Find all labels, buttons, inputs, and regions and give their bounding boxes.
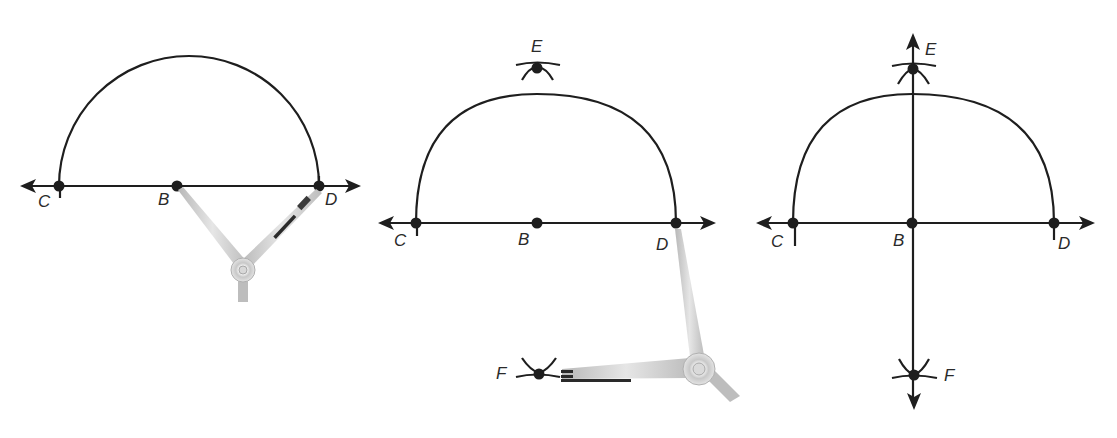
label-d: D	[656, 235, 668, 254]
label-f: F	[496, 364, 508, 383]
arc-intersection-e	[516, 63, 560, 81]
label-b: B	[158, 190, 169, 209]
line-cd	[20, 179, 361, 193]
label-e: E	[925, 40, 937, 59]
point-c	[788, 218, 799, 229]
semicircle-arc	[793, 94, 1054, 223]
label-b: B	[893, 231, 904, 250]
panel-step-2: C B D E F	[378, 37, 740, 402]
compass-icon	[178, 187, 322, 302]
label-c: C	[38, 192, 51, 211]
label-c: C	[394, 231, 407, 250]
compass-icon	[561, 229, 740, 402]
arc-intersection-f	[516, 358, 560, 380]
semicircle-arc	[416, 94, 676, 223]
point-c	[54, 181, 65, 192]
line-cd	[756, 216, 1095, 230]
line-cd	[378, 216, 716, 230]
label-c: C	[771, 232, 784, 251]
arc-intersection-f	[892, 359, 937, 381]
point-b	[907, 218, 918, 229]
point-c	[411, 218, 422, 229]
point-d	[671, 218, 682, 229]
panel-step-3: C B D E F	[756, 33, 1095, 410]
label-f: F	[944, 366, 956, 385]
label-e: E	[531, 37, 543, 56]
point-d	[1049, 218, 1060, 229]
semicircle-arc	[59, 56, 319, 186]
panel-step-1: C B D	[20, 56, 361, 302]
point-b	[532, 218, 543, 229]
label-d: D	[325, 190, 337, 209]
label-d: D	[1058, 234, 1070, 253]
construction-diagram: C B D C B D	[0, 0, 1117, 438]
label-b: B	[518, 230, 529, 249]
